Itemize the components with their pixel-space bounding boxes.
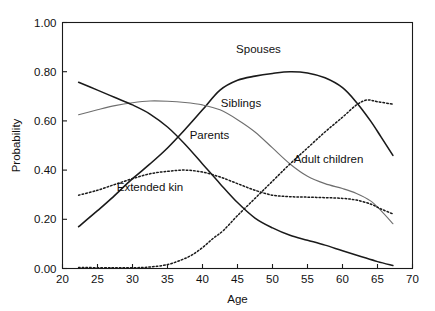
series-annotations: SpousesSiblingsParentsAdult childrenExte… [117,43,364,193]
x-tick-label-45: 45 [231,273,244,285]
probability-by-age-line-chart: 2025303540455055606570 0.000.200.400.600… [0,0,435,311]
x-tick-label-50: 50 [266,273,279,285]
plot-frame [63,23,413,269]
x-tick-label-65: 65 [371,273,384,285]
x-tick-label-40: 40 [196,273,209,285]
y-tick-label-1.00: 1.00 [34,17,56,29]
y-tick-label-0.40: 0.40 [34,164,56,176]
x-axis-ticks: 2025303540455055606570 [56,264,419,285]
x-tick-label-25: 25 [91,273,104,285]
x-axis-title: Age [227,293,247,305]
y-tick-label-0.00: 0.00 [34,263,56,275]
series-label-siblings: Siblings [221,97,262,109]
x-tick-label-30: 30 [126,273,139,285]
plot-border [63,23,413,269]
series-label-spouses: Spouses [236,43,281,55]
curve-parents [79,82,393,265]
chart-figure: 2025303540455055606570 0.000.200.400.600… [0,0,435,311]
y-axis-title: Probability [10,118,22,172]
x-tick-label-35: 35 [161,273,174,285]
x-tick-label-60: 60 [336,273,349,285]
x-tick-label-70: 70 [406,273,419,285]
y-tick-label-0.80: 0.80 [34,66,56,78]
y-tick-label-0.60: 0.60 [34,115,56,127]
y-tick-label-0.20: 0.20 [34,213,56,225]
curve-spouses [79,72,393,227]
x-tick-label-55: 55 [301,273,314,285]
series-label-extended-kin: Extended kin [117,181,184,193]
series-label-adult-children: Adult children [294,153,364,165]
series-label-parents: Parents [190,129,230,141]
x-tick-label-20: 20 [56,273,69,285]
